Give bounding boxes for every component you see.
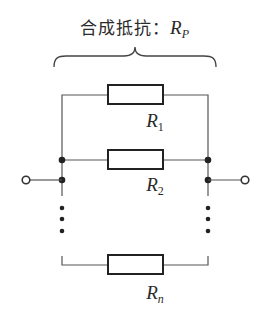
resistor-r2-label: R2 — [125, 174, 185, 199]
resistor-rn-icon — [108, 255, 163, 274]
resistor-r1-label: R1 — [125, 110, 185, 135]
curly-brace-icon — [54, 47, 216, 67]
resistor-r1-icon — [108, 85, 163, 104]
junction-dot-icon — [205, 157, 212, 164]
right-terminal-icon — [241, 176, 249, 184]
branch-rn — [62, 255, 208, 274]
left-ellipsis-icon — [60, 206, 65, 234]
resistor-rn-label: Rn — [125, 282, 185, 307]
left-terminal-icon — [22, 176, 30, 184]
right-ellipsis-icon — [206, 206, 211, 234]
branch-r2 — [62, 150, 208, 169]
junction-dot-icon — [59, 157, 66, 164]
resistor-r2-icon — [108, 150, 163, 169]
parallel-resistor-circuit-diagram: 合成抵抗：RP — [0, 0, 270, 332]
